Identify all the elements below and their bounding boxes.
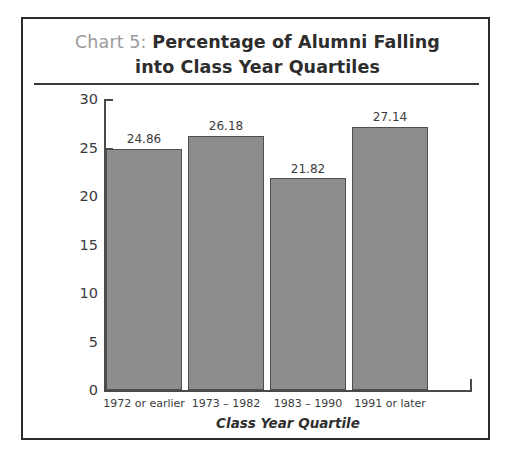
category-label-1973-1982: 1973 – 1982: [180, 398, 272, 410]
category-label-1983-1990: 1983 – 1990: [262, 398, 354, 410]
category-label-1991-or-later: 1991 or later: [344, 398, 436, 410]
y-tick-label-15: 15: [56, 238, 98, 252]
y-tick-0: [104, 390, 113, 392]
x-axis-title: Class Year Quartile: [104, 415, 472, 431]
y-tick-label-30: 30: [56, 92, 98, 106]
y-tick-label-20: 20: [56, 189, 98, 203]
category-label-1972-or-earlier: 1972 or earlier: [98, 398, 190, 410]
bar-value-1972-or-earlier: 24.86: [106, 133, 182, 145]
bar-value-1973-1982: 26.18: [188, 120, 264, 132]
chart-frame: Chart 5: Percentage of Alumni Falling in…: [21, 17, 490, 440]
bar-1983-1990[interactable]: [270, 178, 346, 390]
x-axis-end-tick: [470, 379, 472, 392]
chart-screenshot: Chart 5: Percentage of Alumni Falling in…: [0, 0, 510, 461]
bar-value-1983-1990: 21.82: [270, 163, 346, 175]
y-tick-label-0: 0: [56, 383, 98, 397]
bar-value-1991-or-later: 27.14: [352, 111, 428, 123]
y-tick-label-10: 10: [56, 286, 98, 300]
y-tick-label-5: 5: [56, 335, 98, 349]
y-tick-30: [104, 99, 113, 101]
bar-1991-or-later[interactable]: [352, 127, 428, 390]
bar-1973-1982[interactable]: [188, 136, 264, 390]
y-tick-label-25: 25: [56, 141, 98, 155]
x-axis-line: [104, 390, 472, 392]
plot-area: 30 25 20 15 10 5 0 24.86 26.18 21.82 27.…: [23, 19, 492, 442]
bar-1972-or-earlier[interactable]: [106, 149, 182, 390]
